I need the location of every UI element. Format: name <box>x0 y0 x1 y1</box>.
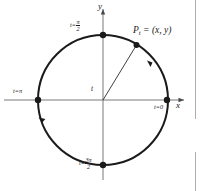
point-t-pi-half <box>100 32 106 38</box>
label-t-zero: t=0 <box>154 104 163 110</box>
arc-direction-arrow-icon-lower-left <box>39 117 46 122</box>
radius-segment <box>103 45 137 100</box>
point-t-zero <box>164 97 170 103</box>
fraction-pi-over-2: π2 <box>76 19 80 33</box>
label-t-3pi-half: t=3π2 <box>79 157 92 171</box>
x-axis-label: x <box>176 101 180 110</box>
y-axis-label: y <box>98 2 102 11</box>
label-terminal-point: Pt = (x, y) <box>133 26 171 36</box>
fraction-3pi-over-2: 3π2 <box>85 157 92 171</box>
label-terminal-point-p: P <box>133 25 139 35</box>
label-terminal-point-equation: = (x, y) <box>141 25 172 35</box>
point-t-pi <box>35 97 41 103</box>
fraction-denominator: 2 <box>76 26 80 32</box>
label-terminal-point-subscript: t <box>139 29 141 36</box>
label-t-pi: t=π <box>13 88 22 94</box>
label-arc-parameter: t <box>91 85 93 93</box>
point-terminal-pt <box>134 42 140 48</box>
fraction-denominator: 2 <box>85 164 92 170</box>
arc-direction-arrow-icon-upper-right <box>147 61 153 67</box>
label-t-pi-half: t=π2 <box>70 19 80 33</box>
point-t-3pi-half <box>100 162 106 168</box>
unit-circle-figure: t=π2 Pt = (x, y) t=π t=0 t=3π2 t x y <box>0 0 201 191</box>
